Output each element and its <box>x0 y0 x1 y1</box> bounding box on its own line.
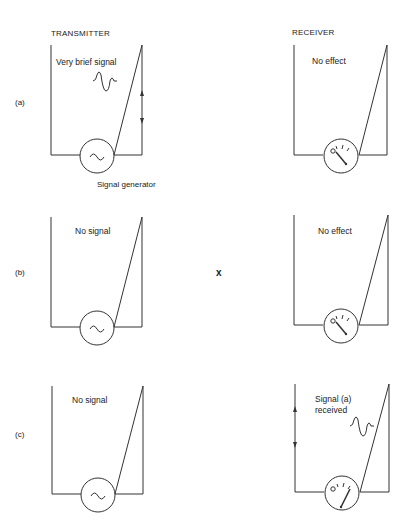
signal-generator-label: Signal generator <box>97 180 156 189</box>
transmitter-text-c: No signal <box>72 395 107 405</box>
receiver-text-b: No effect <box>318 226 352 236</box>
receiver-text-c-line2: received <box>315 405 347 415</box>
transmitter-header: TRANSMITTER <box>51 29 110 38</box>
receiver-text-c-line1: Signal (a) <box>315 394 351 404</box>
receiver-text-a: No effect <box>312 56 346 66</box>
row-label-c: (c) <box>15 430 24 439</box>
receiver-header: RECEIVER <box>292 28 335 37</box>
transmitter-text-b: No signal <box>75 226 110 236</box>
row-label-a: (a) <box>15 98 25 107</box>
transmitter-text-a: Very brief signal <box>56 57 116 67</box>
no-connection-mark: x <box>216 267 222 278</box>
circuit-diagrams <box>0 0 408 530</box>
row-label-b: (b) <box>15 268 25 277</box>
